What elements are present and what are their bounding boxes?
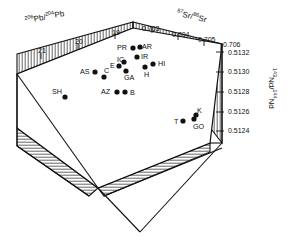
point-label-ic: IC	[117, 56, 124, 63]
point-label-c: C	[104, 67, 109, 74]
point-label-ar: AR	[142, 43, 152, 50]
data-point-ir	[134, 54, 139, 59]
point-label-hi: HI	[158, 60, 165, 67]
nd-tick-label: 0.5124	[228, 127, 249, 134]
data-point-t	[180, 118, 185, 123]
data-point-as	[92, 69, 97, 74]
sr-tick-label: 0.705	[198, 36, 216, 43]
data-point-az	[114, 89, 119, 94]
nd-tick-label: 0.5132	[228, 49, 249, 56]
nd-tick-label: 0.5130	[228, 68, 249, 75]
point-label-sh: SH	[52, 88, 62, 95]
data-point-h	[142, 64, 147, 69]
data-point-hi	[150, 61, 155, 66]
pb-tick-label: 19	[112, 29, 120, 36]
data-point-sh	[62, 94, 67, 99]
pb-tick-label: 20	[75, 38, 83, 45]
point-label-t: T	[174, 118, 178, 125]
data-point-go	[191, 116, 196, 121]
point-label-ga: GA	[124, 74, 134, 81]
data-point-e	[116, 63, 121, 68]
point-label-b: B	[130, 89, 135, 96]
sr-tick-label: 0.703	[142, 25, 160, 32]
data-point-b	[122, 89, 127, 94]
point-label-ir: IR	[141, 53, 148, 60]
point-label-as: AS	[80, 68, 90, 75]
point-label-e: E	[110, 62, 115, 69]
point-label-go: GO	[193, 123, 204, 130]
edge-front-vertical-drop	[98, 188, 140, 232]
sr-tick-label: 0.706	[223, 41, 241, 48]
nd-axis-title: 143Nd/144Nd	[267, 68, 277, 109]
sr-tick-label: 0.704	[172, 31, 190, 38]
point-label-az: AZ	[101, 88, 110, 95]
isotope-3d-plot: 206Pb/204Pb 87Sr/86Sr 143Nd/144Nd 212019…	[0, 0, 295, 241]
pb-tick-label: 21	[38, 47, 46, 54]
data-point-pr	[130, 45, 135, 50]
nd-tick-label: 0.5126	[228, 108, 249, 115]
point-label-h: H	[144, 71, 149, 78]
point-label-pr: PR	[117, 44, 127, 51]
nd-tick-label: 0.5128	[228, 88, 249, 95]
plot-geometry	[0, 0, 295, 241]
data-point-c	[101, 74, 106, 79]
point-label-k: K	[197, 107, 202, 114]
